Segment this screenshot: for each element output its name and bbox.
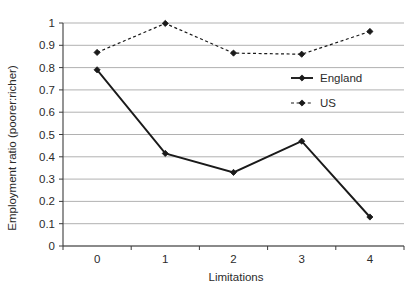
data-series-group <box>94 20 373 220</box>
x-axis-tick-marks <box>63 246 404 250</box>
x-tick-label: 1 <box>162 253 168 265</box>
x-axis-tick-labels: 01234 <box>94 253 374 265</box>
y-tick-label: 0.6 <box>39 106 55 118</box>
x-tick-label: 0 <box>94 253 100 265</box>
x-tick-label: 2 <box>230 253 236 265</box>
y-tick-label: 0.1 <box>39 218 55 230</box>
legend-marker-england <box>299 75 305 81</box>
y-tick-label: 0.4 <box>39 151 56 163</box>
x-tick-label: 3 <box>298 253 304 265</box>
legend-marker-us <box>299 100 305 106</box>
y-tick-label: 0 <box>49 240 55 252</box>
line-chart: 00.10.20.30.40.50.60.70.80.91 01234 Empl… <box>0 0 414 289</box>
data-point-us <box>367 28 373 34</box>
y-axis-tick-labels: 00.10.20.30.40.50.60.70.80.91 <box>39 17 56 252</box>
x-axis-title: Limitations <box>209 271 264 283</box>
y-tick-label: 0.7 <box>39 84 55 96</box>
legend-label-us: US <box>320 97 336 109</box>
y-tick-label: 1 <box>49 17 55 29</box>
data-point-us <box>94 49 100 55</box>
data-point-us <box>299 51 305 57</box>
legend: EnglandUS <box>291 72 362 109</box>
y-tick-label: 0.3 <box>39 173 55 185</box>
chart-canvas: 00.10.20.30.40.50.60.70.80.91 01234 Empl… <box>0 0 414 289</box>
data-point-us <box>230 50 236 56</box>
y-axis-title: Employment ratio (poorer:richer) <box>6 65 18 231</box>
y-axis-tick-marks <box>59 23 63 246</box>
y-tick-label: 0.8 <box>39 62 55 74</box>
legend-label-england: England <box>320 72 362 84</box>
series-line-england <box>97 70 370 217</box>
y-tick-label: 0.9 <box>39 39 55 51</box>
y-tick-label: 0.5 <box>39 129 55 141</box>
x-tick-label: 4 <box>367 253 374 265</box>
y-tick-label: 0.2 <box>39 195 55 207</box>
data-point-us <box>162 20 168 26</box>
data-point-england <box>230 169 236 175</box>
